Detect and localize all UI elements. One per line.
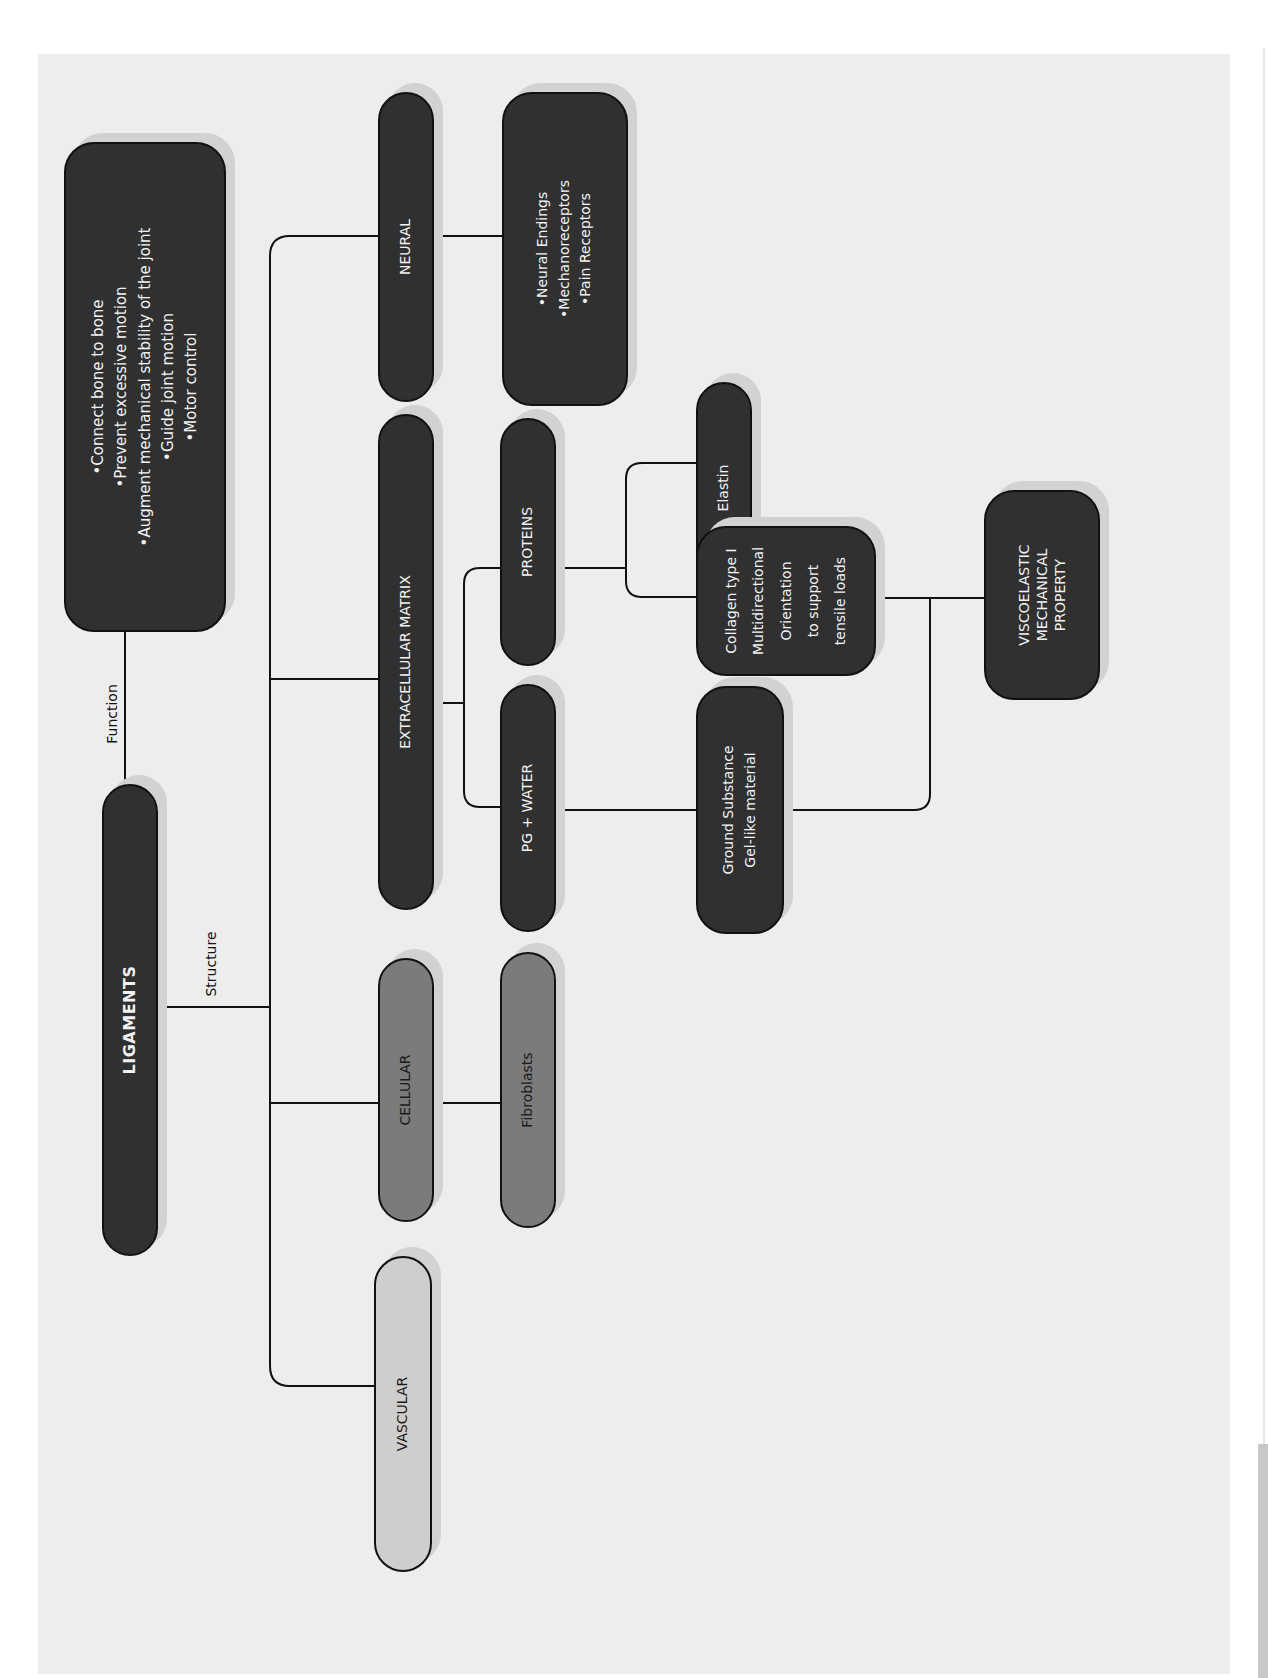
edge-label-function: Function	[104, 684, 120, 744]
function-item: •Guide joint motion	[157, 228, 180, 547]
neural-node: NEURAL	[378, 92, 434, 402]
viscoelastic-line: VISCOELASTIC	[1015, 544, 1033, 645]
neural-item: •Mechanoreceptors	[554, 180, 576, 318]
function-item: •Motor control	[180, 228, 203, 547]
collagen-node: Collagen type I Multidirectional Orienta…	[696, 526, 876, 676]
viscoelastic-node: VISCOELASTIC MECHANICAL PROPERTY	[984, 490, 1100, 700]
collagen-line: Multidirectional	[745, 547, 772, 655]
ground-substance-line: Ground Substance	[718, 745, 740, 874]
vascular-label: VASCULAR	[392, 1377, 414, 1452]
function-item: •Prevent excessive motion	[110, 228, 133, 547]
pg-water-node: PG + WATER	[500, 684, 556, 932]
extracellular-matrix-node: EXTRACELLULAR MATRIX	[378, 414, 434, 910]
function-item: •Augment mechanical stability of the joi…	[133, 228, 156, 547]
vascular-node: VASCULAR	[374, 1256, 432, 1572]
neural-item: •Neural Endings	[532, 180, 554, 318]
collagen-line: Collagen type I	[718, 547, 745, 655]
collagen-line: tensile loads	[827, 547, 854, 655]
ground-substance-node: Ground Substance Gel-like material	[696, 686, 784, 934]
fibroblasts-label: Fibroblasts	[517, 1052, 539, 1127]
neural-label: NEURAL	[395, 219, 417, 275]
elastin-label: Elastin	[713, 465, 735, 512]
cellular-label: CELLULAR	[395, 1054, 417, 1125]
proteins-label: PROTEINS	[517, 507, 539, 577]
viscoelastic-line: MECHANICAL	[1033, 544, 1051, 645]
neural-list-box: •Neural Endings •Mechanoreceptors •Pain …	[502, 92, 628, 406]
ground-substance-line: Gel-like material	[740, 745, 762, 874]
collagen-line: Orientation	[772, 547, 799, 655]
collagen-line: to support	[800, 547, 827, 655]
function-item: •Connect bone to bone	[87, 228, 110, 547]
fibroblasts-node: Fibroblasts	[500, 952, 556, 1228]
viscoelastic-line: PROPERTY	[1051, 544, 1069, 645]
proteins-node: PROTEINS	[500, 418, 556, 666]
cellular-node: CELLULAR	[378, 958, 434, 1222]
function-box: •Connect bone to bone •Prevent excessive…	[64, 142, 226, 632]
pg-water-label: PG + WATER	[517, 764, 539, 853]
ligaments-node: LIGAMENTS	[102, 784, 158, 1256]
ecm-label: EXTRACELLULAR MATRIX	[395, 575, 417, 748]
edge-label-structure: Structure	[203, 931, 219, 996]
ligaments-title: LIGAMENTS	[118, 966, 143, 1075]
neural-item: •Pain Receptors	[576, 180, 598, 318]
